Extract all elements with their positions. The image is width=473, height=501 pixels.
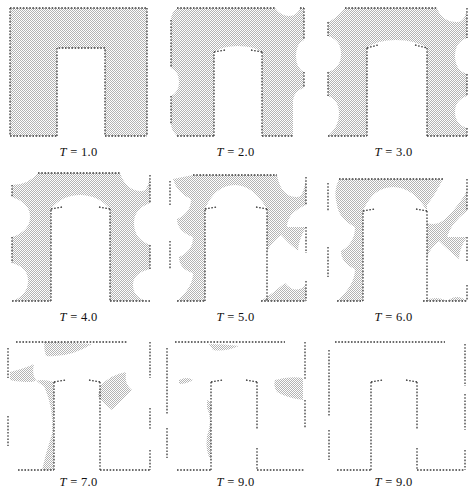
panel-t6-plot (315, 165, 472, 309)
panel-t2: T = 2.0 (157, 0, 314, 165)
panel-t2-caption: T = 2.0 (217, 145, 255, 160)
panel-t6-caption: T = 6.0 (375, 310, 413, 325)
material-region (179, 344, 303, 460)
panel-t3-plot (315, 0, 472, 144)
panel-t1: T = 1.0 (0, 0, 157, 165)
domain-boundary (8, 342, 150, 470)
panel-t2-plot (157, 0, 314, 144)
panel-t7-plot (0, 330, 157, 474)
panel-t3: T = 3.0 (314, 0, 473, 165)
panel-t7: T = 7.0 (0, 330, 157, 501)
panel-t6: T = 6.0 (314, 165, 473, 330)
domain-boundary (329, 342, 465, 470)
panel-t5-caption: T = 5.0 (217, 310, 255, 325)
panel-t1-plot (0, 0, 157, 144)
panel-t1-caption: T = 1.0 (60, 145, 98, 160)
domain-boundary (167, 342, 305, 470)
material-region (328, 8, 467, 136)
panel-t3-caption: T = 3.0 (375, 145, 413, 160)
panel-t5-plot (157, 165, 314, 309)
material-region (171, 8, 304, 136)
panel-t4-plot (0, 165, 157, 309)
material-region (10, 8, 147, 136)
material-region (12, 173, 150, 301)
material-region (173, 175, 306, 301)
panel-t8: T = 9.0 (157, 330, 314, 501)
panel-t9: T = 9.0 (314, 330, 473, 501)
material-region (335, 179, 467, 301)
panel-t5: T = 5.0 (157, 165, 314, 330)
panel-t4-caption: T = 4.0 (60, 310, 98, 325)
figure-grid: T = 1.0 (0, 0, 473, 501)
panel-t4: T = 4.0 (0, 165, 157, 330)
material-region (10, 342, 132, 470)
panel-t8-plot (157, 330, 314, 474)
panel-t9-plot (315, 330, 472, 474)
